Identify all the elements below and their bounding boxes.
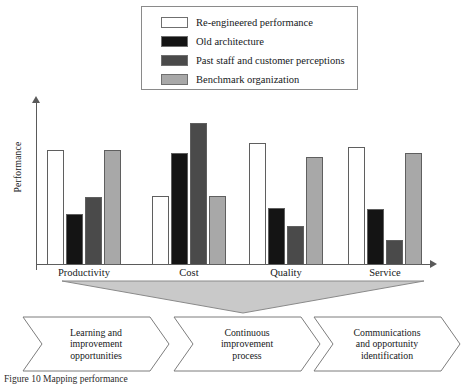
x-tick-label-quality: Quality — [249, 267, 323, 278]
bar-quality-2 — [287, 226, 304, 265]
bar-quality-3 — [306, 157, 323, 265]
bar-quality-0 — [249, 143, 266, 265]
process-step-line: process — [232, 350, 261, 361]
figure-caption: Figure 10 Mapping performance — [4, 374, 444, 384]
bar-service-3 — [405, 153, 422, 265]
process-step-label: Continuousimprovementprocess — [173, 316, 321, 372]
bar-productivity-3 — [104, 150, 121, 265]
legend-item-label: Re-engineered performance — [196, 17, 313, 28]
bar-service-0 — [348, 147, 365, 265]
bar-cost-3 — [209, 196, 226, 265]
bars-container — [0, 96, 459, 265]
chart-legend: Re-engineered performance Old architectu… — [141, 6, 358, 90]
bar-service-1 — [367, 209, 384, 265]
legend-item: Re-engineered performance — [161, 16, 313, 29]
bar-service-2 — [386, 240, 403, 265]
process-step-line: opportunities — [70, 350, 122, 361]
funnel-triangle-shape — [62, 281, 424, 313]
funnel-triangle — [0, 279, 459, 315]
legend-item-label: Benchmark organization — [196, 74, 299, 85]
process-step-3: Communicationsand opportunityidentificat… — [313, 316, 461, 372]
bar-quality-1 — [268, 208, 285, 265]
legend-item: Old architecture — [161, 35, 264, 48]
process-step-2: Continuousimprovementprocess — [173, 316, 321, 372]
bar-productivity-1 — [66, 214, 83, 265]
legend-swatch-perceptions — [161, 55, 188, 66]
legend-swatch-old-architecture — [161, 36, 188, 47]
process-step-1: Learning andimprovementopportunities — [22, 316, 170, 372]
legend-swatch-benchmark — [161, 74, 188, 85]
legend-item: Past staff and customer perceptions — [161, 54, 345, 67]
bar-chart: Performance ProductivityCostQualityServi… — [0, 96, 459, 276]
x-tick-label-productivity: Productivity — [47, 267, 121, 278]
process-step-label: Learning andimprovementopportunities — [22, 316, 170, 372]
process-step-line: Communications — [354, 327, 421, 338]
legend-item-label: Old architecture — [196, 36, 264, 47]
legend-swatch-re-engineered — [161, 17, 188, 28]
process-step-line: improvement — [221, 338, 273, 349]
bar-productivity-2 — [85, 197, 102, 265]
process-step-label: Communicationsand opportunityidentificat… — [313, 316, 461, 372]
x-tick-label-service: Service — [348, 267, 422, 278]
process-step-line: and opportunity — [356, 338, 418, 349]
legend-item: Benchmark organization — [161, 73, 299, 86]
bar-cost-2 — [190, 123, 207, 265]
process-step-line: Learning and — [70, 327, 122, 338]
process-step-line: improvement — [70, 338, 122, 349]
process-step-line: identification — [361, 350, 413, 361]
bar-productivity-0 — [47, 150, 64, 265]
x-tick-label-cost: Cost — [152, 267, 226, 278]
process-steps: Learning andimprovementopportunitiesCont… — [0, 316, 459, 376]
legend-item-label: Past staff and customer perceptions — [196, 55, 345, 66]
bar-cost-0 — [152, 196, 169, 265]
process-step-line: Continuous — [224, 327, 269, 338]
bar-cost-1 — [171, 153, 188, 265]
